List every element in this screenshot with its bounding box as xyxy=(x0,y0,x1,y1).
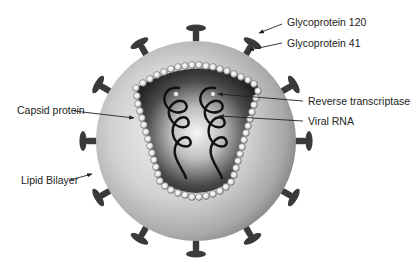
reverse-transcriptase-dot xyxy=(210,91,215,96)
label-glycoprotein-120: Glycoprotein 120 xyxy=(287,16,366,28)
label-glycoprotein-41: Glycoprotein 41 xyxy=(287,37,361,49)
label-lipid-bilayer: Lipid Bilayer xyxy=(21,174,78,186)
label-viral-rna: Viral RNA xyxy=(308,115,354,127)
label-capsid-protein: Capsid protein xyxy=(17,104,85,116)
label-reverse-transcriptase: Reverse transcriptase xyxy=(308,95,410,107)
reverse-transcriptase-dot xyxy=(173,91,178,96)
